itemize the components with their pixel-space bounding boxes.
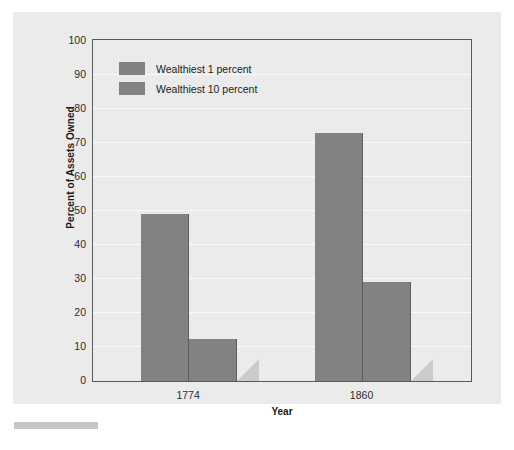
footer-rule [14,422,98,429]
y-tick-label: 0 [80,374,86,386]
x-tick-label: 1860 [350,389,373,401]
gridline [93,210,471,211]
bar [189,339,237,382]
legend-item: Wealthiest 1 percent [119,62,257,75]
y-tick-label: 100 [68,34,86,46]
x-axis-title: Year [92,406,472,417]
legend-swatch-icon [119,82,145,95]
y-tick-label: 40 [74,238,86,250]
y-tick-label: 60 [74,170,86,182]
chart-legend: Wealthiest 1 percent Wealthiest 10 perce… [119,62,257,102]
bar [315,133,363,381]
plot-area: 0102030405060708090100 Wealthiest 1 perc… [92,39,472,382]
legend-swatch-icon [119,62,145,75]
y-tick-label: 80 [74,102,86,114]
y-tick-label: 30 [74,272,86,284]
y-axis-title: Percent of Assets Owned [65,73,76,263]
y-tick-label: 20 [74,306,86,318]
bar [141,214,189,381]
legend-item-label: Wealthiest 1 percent [156,63,252,75]
gridline [93,142,471,143]
legend-item: Wealthiest 10 percent [119,82,257,95]
bar [363,282,411,381]
y-tick-label: 10 [74,340,86,352]
y-tick-label: 90 [74,68,86,80]
y-tick-label: 50 [74,204,86,216]
x-tick-label: 1774 [176,389,199,401]
bar-shadow [237,359,259,381]
gridline [93,176,471,177]
bar-shadow [411,359,433,381]
gridline [93,108,471,109]
chart-figure-panel: Percent of Assets Owned 0102030405060708… [13,12,501,404]
legend-item-label: Wealthiest 10 percent [156,83,257,95]
y-tick-label: 70 [74,136,86,148]
